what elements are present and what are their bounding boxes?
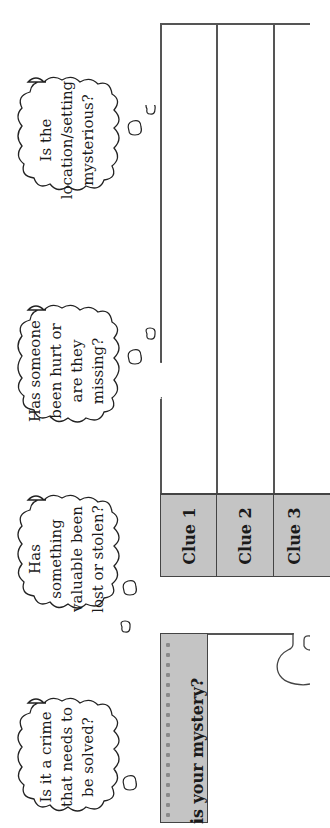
mystery-prompt-label: is your mystery?	[188, 677, 207, 823]
bubble-text-stolen: Has something valuable been lost or stol…	[25, 505, 109, 612]
clue-3-answer-cell[interactable]	[275, 25, 310, 492]
thought-trail-icon	[118, 575, 158, 645]
clue-2-label: Clue 2	[236, 507, 255, 564]
thought-bubble-missing: Has someone been hurt or are they missin…	[8, 300, 126, 442]
clue-1-answer-cell[interactable]	[162, 25, 216, 492]
bubble-text-missing: Has someone been hurt or are they missin…	[25, 320, 109, 422]
mystery-prompt-strip: is your mystery?	[160, 633, 208, 823]
bubble-text-crime: Is it a crime that needs to be solved?	[36, 707, 99, 807]
thought-bubble-setting: Is the location/setting mysterious?	[8, 72, 126, 208]
clue-3-label: Clue 3	[285, 507, 304, 564]
clue-3-header: Clue 3	[273, 493, 330, 577]
bubble-text-setting: Is the location/setting mysterious?	[36, 81, 99, 199]
clue-1-header: Clue 1	[160, 493, 217, 577]
clue-2-answer-cell[interactable]	[218, 25, 273, 492]
thought-trail-icon	[125, 320, 165, 380]
thought-trail-icon	[118, 770, 148, 800]
dotted-border-icon	[165, 640, 171, 822]
clue-2-header: Clue 2	[216, 493, 274, 577]
clue-1-label: Clue 1	[179, 507, 198, 564]
thought-trail-icon	[125, 105, 165, 165]
thought-bubble-crime: Is it a crime that needs to be solved?	[8, 693, 126, 828]
thought-bubble-stolen: Has something valuable been lost or stol…	[8, 490, 126, 628]
puzzle-knob-icon	[268, 630, 310, 694]
